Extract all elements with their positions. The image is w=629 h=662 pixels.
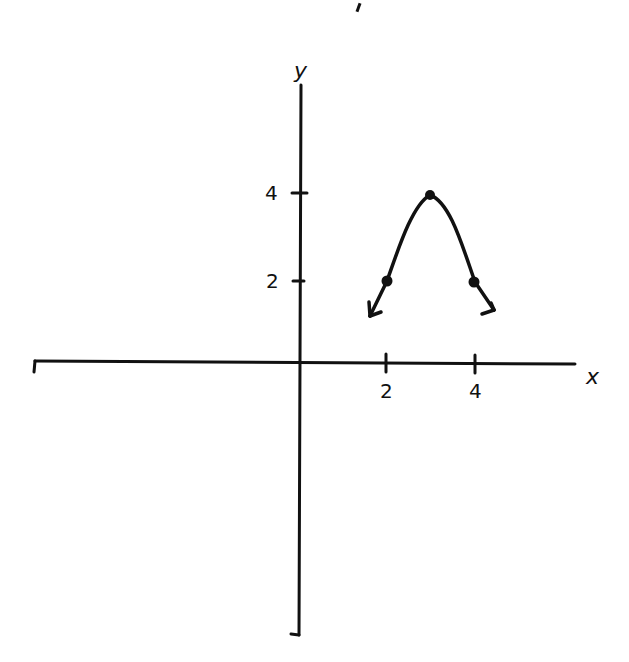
x-axis-label: x: [586, 366, 599, 388]
y-tick-label-4: 4: [265, 183, 278, 203]
curve-points: [382, 190, 480, 288]
y-axis-label: y: [294, 60, 307, 82]
point-2-2: [382, 276, 393, 287]
hand-drawn-graph: [0, 0, 629, 662]
x-tick-label-2: 2: [380, 381, 393, 401]
y-axis: [291, 85, 307, 635]
curve: [369, 195, 494, 316]
y-tick-label-2: 2: [266, 271, 279, 291]
point-4-2: [469, 277, 480, 288]
x-axis: [34, 354, 575, 373]
x-tick-label-4: 4: [469, 381, 482, 401]
point-3-4: [425, 190, 435, 200]
